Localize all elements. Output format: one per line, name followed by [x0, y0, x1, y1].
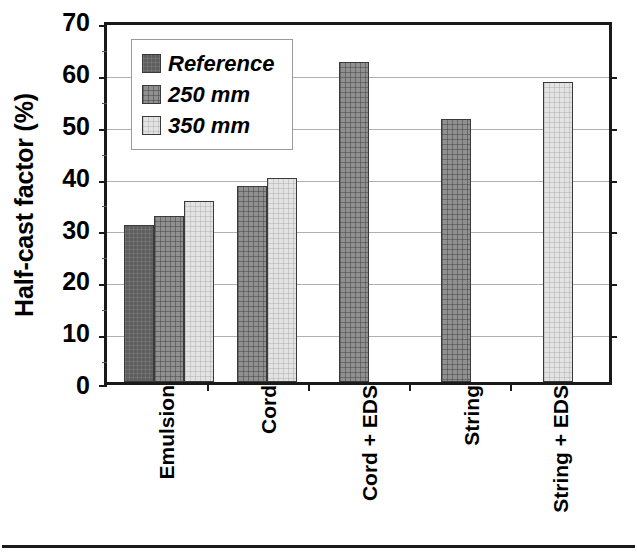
- y-tick-label-30: 30: [44, 218, 90, 243]
- y-tick-40: [99, 181, 107, 183]
- legend-swatch-350mm-icon: [142, 116, 161, 135]
- y-minor-tick-45: [102, 155, 107, 156]
- x-label-cord: Cord: [256, 385, 282, 525]
- y-tick-10: [99, 336, 107, 338]
- legend-item-350mm: 350 mm: [142, 110, 284, 141]
- bar-cord-250mm: [237, 186, 267, 383]
- y-tick-label-50: 50: [44, 114, 90, 139]
- y-right-tick-10: [609, 336, 617, 338]
- legend-swatch-reference-icon: [142, 54, 161, 73]
- y-tick-60: [99, 77, 107, 79]
- bar-emulsion-350mm: [184, 201, 214, 382]
- y-right-tick-60: [609, 77, 617, 79]
- y-axis-title: Half-cast factor (%): [6, 10, 42, 400]
- y-tick-70: [99, 25, 107, 27]
- chart-legend: Reference 250 mm 350 mm: [131, 39, 293, 150]
- x-label-string-eds: String + EDS: [548, 385, 600, 525]
- x-axis-tick-labels: Emulsion Cord Cord + EDS String String +…: [104, 385, 612, 530]
- bottom-rule: [2, 545, 635, 548]
- plot-area: Reference 250 mm 350 mm: [104, 22, 612, 385]
- y-tick-label-10: 10: [44, 321, 90, 346]
- y-right-tick-50: [609, 129, 617, 131]
- y-minor-tick-5: [102, 362, 107, 363]
- y-tick-label-20: 20: [44, 269, 90, 294]
- y-right-tick-20: [609, 284, 617, 286]
- y-tick-label-40: 40: [44, 166, 90, 191]
- legend-item-reference: Reference: [142, 48, 284, 79]
- y-minor-tick-25: [102, 258, 107, 259]
- y-minor-tick-15: [102, 310, 107, 311]
- y-minor-tick-35: [102, 206, 107, 207]
- y-minor-tick-65: [102, 51, 107, 52]
- plot-inner: Reference 250 mm 350 mm: [107, 25, 609, 382]
- bar-cord-350mm: [267, 178, 297, 382]
- y-axis-tick-labels: 70 60 50 40 30 20 10 0: [40, 0, 90, 554]
- x-label-cord-eds: Cord + EDS: [357, 385, 383, 525]
- y-right-tick-40: [609, 181, 617, 183]
- y-tick-50: [99, 129, 107, 131]
- y-tick-label-0: 0: [44, 373, 90, 398]
- y-minor-tick-55: [102, 103, 107, 104]
- legend-item-250mm: 250 mm: [142, 79, 284, 110]
- x-label-emulsion: Emulsion: [154, 385, 180, 525]
- y-tick-20: [99, 284, 107, 286]
- bar-cord-eds-250mm: [339, 62, 369, 382]
- chart-figure: Half-cast factor (%) 70 60 50 40 30 20 1…: [0, 0, 637, 554]
- legend-swatch-250mm-icon: [142, 85, 161, 104]
- y-tick-label-60: 60: [44, 62, 90, 87]
- legend-label-250mm: 250 mm: [168, 84, 250, 106]
- bar-string-250mm: [441, 119, 471, 382]
- x-label-string: String: [459, 385, 485, 525]
- bar-string-eds-350mm: [543, 82, 573, 382]
- legend-label-350mm: 350 mm: [168, 115, 250, 137]
- y-right-tick-30: [609, 232, 617, 234]
- bar-emulsion-250mm: [154, 216, 184, 382]
- bar-emulsion-reference: [124, 225, 154, 382]
- legend-label-reference: Reference: [168, 53, 274, 75]
- y-tick-label-70: 70: [44, 10, 90, 35]
- y-tick-30: [99, 232, 107, 234]
